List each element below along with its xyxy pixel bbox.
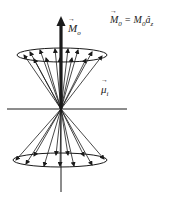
mu-symbol: μ bbox=[101, 83, 107, 95]
spin-vector-up bbox=[61, 52, 92, 109]
equation-lhs-subscript: 0 bbox=[118, 20, 122, 28]
equation-equals: = bbox=[124, 14, 131, 25]
spin-vector-down bbox=[26, 109, 61, 164]
m-subscript: o bbox=[77, 29, 81, 37]
spin-vector-up bbox=[61, 56, 102, 109]
spin-vector-up bbox=[24, 55, 61, 109]
spin-moment-label: μi bbox=[101, 83, 108, 98]
net-magnetization-label: Mo bbox=[68, 22, 81, 37]
equation-unit-subscript: z bbox=[150, 20, 153, 28]
equation-rhs-symbol: M bbox=[134, 14, 142, 25]
precession-diagram bbox=[0, 0, 173, 204]
spin-vector-down bbox=[44, 109, 61, 166]
equation-lhs-symbol: M bbox=[110, 14, 118, 25]
spin-vector-down bbox=[61, 109, 74, 166]
m-symbol: M bbox=[68, 22, 77, 34]
net-magnetization-arrowhead-icon bbox=[57, 16, 66, 26]
spin-vector-down bbox=[16, 109, 61, 160]
magnetization-equation: M0 = M0âz bbox=[110, 14, 153, 28]
